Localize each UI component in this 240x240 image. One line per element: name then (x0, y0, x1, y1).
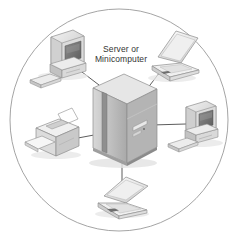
server-label: Server or Minicomputer (90, 44, 152, 64)
network-diagram: Server or Minicomputer (0, 0, 240, 240)
diagram-canvas (0, 0, 240, 240)
server-label-line2: Minicomputer (90, 54, 152, 64)
server-label-line1: Server or (90, 44, 152, 54)
